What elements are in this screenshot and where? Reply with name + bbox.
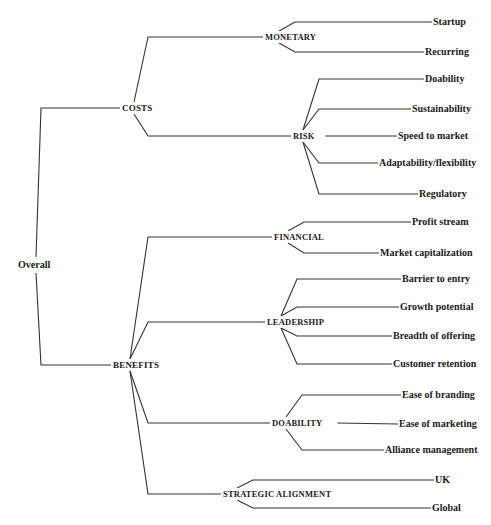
node-doability: DOABILITY xyxy=(271,417,323,429)
leaf-regulatory: Regulatory xyxy=(418,188,468,200)
leaf-startup: Startup xyxy=(432,16,467,28)
leaf-breadth-of-offering: Breadth of offering xyxy=(392,330,476,342)
node-strategic-alignment: STRATEGIC ALIGNMENT xyxy=(222,488,332,500)
leaf-doability: Doability xyxy=(424,73,465,85)
leaf-market-capitalization: Market capitalization xyxy=(379,247,473,259)
node-costs: COSTS xyxy=(121,102,154,114)
node-overall: Overall xyxy=(17,259,51,271)
leaf-adaptability-flexibility: Adaptability/flexibility xyxy=(378,157,477,169)
node-risk: RISK xyxy=(292,130,316,142)
node-leadership: LEADERSHIP xyxy=(266,316,325,328)
leaf-profit-stream: Profit stream xyxy=(411,216,470,228)
node-monetary: MONETARY xyxy=(264,31,317,43)
leaf-recurring: Recurring xyxy=(424,46,470,58)
leaf-uk: UK xyxy=(434,474,451,486)
leaf-customer-retention: Customer retention xyxy=(392,358,477,370)
leaf-ease-of-branding: Ease of branding xyxy=(401,389,476,401)
hierarchy-diagram: Overall COSTS BENEFITS MONETARY RISK FIN… xyxy=(0,0,491,525)
leaf-barrier-to-entry: Barrier to entry xyxy=(401,273,471,285)
node-benefits: BENEFITS xyxy=(112,359,160,371)
leaf-speed-to-market: Speed to market xyxy=(397,130,469,142)
node-financial: FINANCIAL xyxy=(273,231,325,243)
leaf-ease-of-marketing: Ease of marketing xyxy=(398,418,478,430)
leaf-sustainability: Sustainability xyxy=(411,103,472,115)
leaf-global: Global xyxy=(431,502,462,514)
leaf-growth-potential: Growth potential xyxy=(399,301,474,313)
leaf-alliance-management: Alliance management xyxy=(384,444,479,456)
